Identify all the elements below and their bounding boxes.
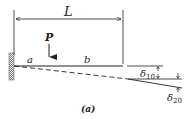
load-label: P [44,31,54,44]
length-label: L [63,4,73,19]
figure-caption: (a) [81,104,95,114]
deflected-shape-extension [128,79,182,88]
fixed-wall-support [9,53,14,80]
deflected-shape-dashed [14,66,128,79]
delta20-label: δ20 [167,92,182,105]
segment-a-label: a [27,54,33,65]
segment-b-label: b [84,54,90,65]
cantilever-diagram: L P a b δ10 δ20 (a) [0,0,194,119]
